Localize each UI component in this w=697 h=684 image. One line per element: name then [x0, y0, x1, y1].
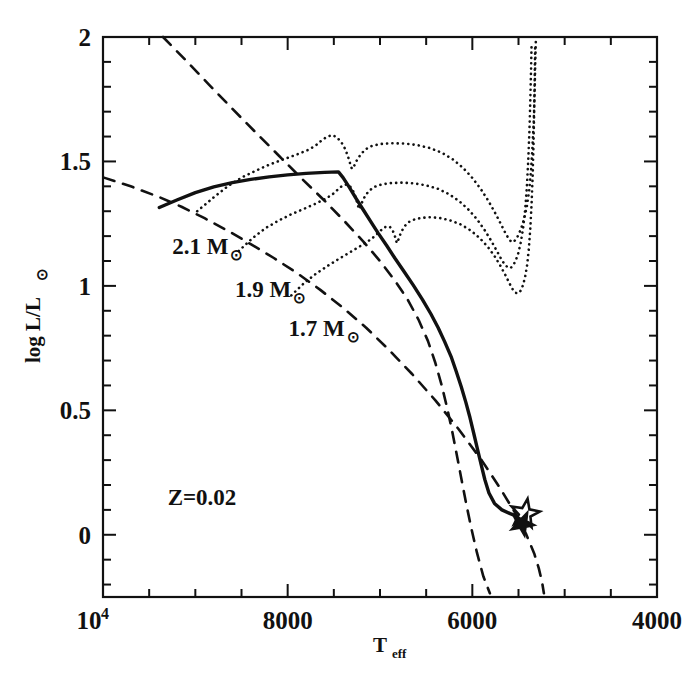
y-tick-label: 2 [79, 24, 92, 51]
x-tick-label: 6000 [447, 607, 497, 634]
annotation-mass-label-1.7: 1.7 M [289, 316, 346, 341]
annotation-metallicity: Z=0.02 [168, 485, 237, 510]
y-tick-label: 1.5 [60, 148, 91, 175]
x-tick-labels: 104800060004000 [77, 605, 683, 634]
y-tick-label: 1 [79, 273, 92, 300]
x-axis-ticks [103, 37, 657, 597]
x-tick-label-exponent: 4 [101, 605, 109, 622]
hr-diagram-svg: Z=0.022.1 M⊙1.9 M⊙1.7 M⊙ 104800060004000… [0, 0, 697, 684]
annotation-mass-label-2.1: 2.1 M [172, 234, 229, 259]
series-zams-dashed-upper [104, 178, 544, 594]
y-axis-title-text: log L/L [21, 297, 45, 363]
annotation-layer: Z=0.022.1 M⊙1.9 M⊙1.7 M⊙ [168, 234, 360, 510]
y-tick-label: 0.5 [60, 397, 91, 424]
x-axis-title-text: T [373, 633, 387, 657]
plot-frame [103, 37, 657, 597]
figure-canvas: Z=0.022.1 M⊙1.9 M⊙1.7 M⊙ 104800060004000… [0, 0, 697, 684]
x-tick-label: 4000 [632, 607, 682, 634]
marker-layer [511, 499, 540, 536]
x-tick-label-base: 10 [77, 607, 102, 634]
annotation-mass-label-1.7-sun: ⊙ [347, 329, 360, 345]
series-evolutionary-track-1.9 [239, 43, 532, 268]
x-axis-title-subscript: eff [392, 646, 407, 661]
y-axis-title-sun-symbol: ⊙ [34, 268, 50, 281]
x-tick-label: 8000 [263, 607, 313, 634]
x-axis-title: T eff [373, 633, 407, 661]
y-tick-labels: 00.511.52 [60, 24, 91, 549]
y-axis-title: log L/L ⊙ [21, 268, 50, 363]
y-tick-label: 0 [79, 522, 92, 549]
annotation-mass-label-2.1-sun: ⊙ [230, 247, 243, 263]
annotation-mass-label-1.9: 1.9 M [235, 277, 292, 302]
annotation-mass-label-1.9-sun: ⊙ [293, 290, 306, 306]
series-evolutionary-track-2.1 [197, 39, 536, 242]
